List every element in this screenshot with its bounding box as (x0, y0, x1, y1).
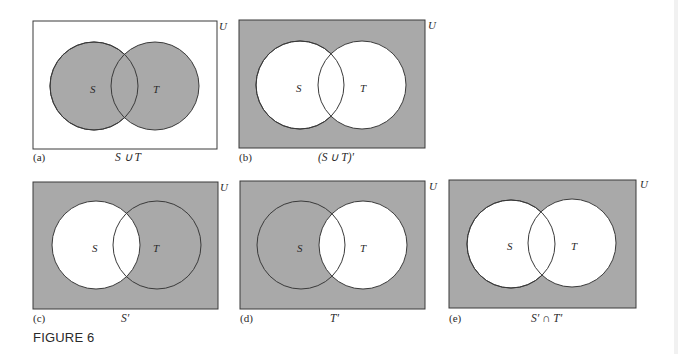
universe-label: U (219, 20, 228, 32)
set-t-label: T (360, 242, 367, 254)
set-s-label: S (90, 83, 96, 95)
set-t-label: T (360, 82, 367, 94)
panel-id: (a) (33, 151, 46, 164)
panel-b: S T U (b) (S ∪ T)′ (239, 19, 437, 164)
universe-label: U (429, 180, 438, 192)
panel-caption: S ∪ T (115, 151, 143, 163)
panel-id: (c) (33, 312, 46, 325)
panel-caption: S′ (121, 312, 130, 324)
figure-title: FIGURE 6 (33, 330, 95, 345)
set-s-label: S (296, 82, 302, 94)
set-s-label: S (507, 240, 513, 252)
panel-caption: (S ∪ T)′ (318, 151, 355, 164)
set-t-label: T (153, 242, 160, 254)
panel-caption: S′ ∩ T′ (531, 312, 563, 324)
panel-id: (d) (240, 312, 253, 325)
universe-label: U (220, 181, 229, 193)
panel-e: S T U (e) S′ ∩ T′ (449, 178, 649, 325)
panel-caption: T′ (330, 312, 339, 324)
set-t-label: T (153, 83, 160, 95)
panel-id: (b) (239, 151, 252, 164)
panel-c: S T U (c) S′ (33, 181, 229, 325)
venn-figure: S T U (a) S ∪ T S T U (b) (S ∪ T)′ S T U… (0, 0, 678, 354)
page-edge (674, 0, 678, 354)
set-s-label: S (297, 242, 303, 254)
set-t-label: T (571, 240, 578, 252)
panel-a: S T U (a) S ∪ T (33, 20, 228, 164)
universe-label: U (428, 19, 437, 31)
panel-id: (e) (449, 312, 462, 325)
set-s-label: S (92, 242, 98, 254)
panel-d: S T U (d) T′ (240, 180, 438, 325)
universe-label: U (640, 178, 649, 190)
